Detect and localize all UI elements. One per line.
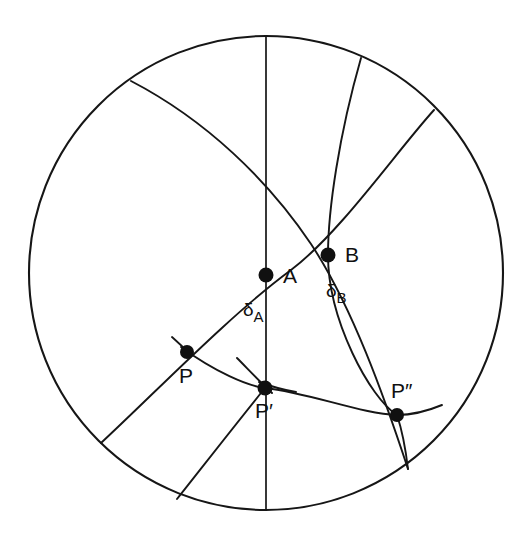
delta-A-glyph: δ (243, 299, 254, 320)
delta-A-subscript: A (254, 308, 264, 325)
point-label-A: A (283, 264, 297, 287)
great-circle-exit-bottom-left (177, 388, 265, 499)
point-label-B: B (345, 243, 359, 266)
point-marker-Pprime[interactable] (258, 381, 273, 396)
great-circle-arc-through-B-and-Pdoubleprime (328, 58, 408, 469)
figure-root: A B P P′ P″ δA δB (0, 0, 529, 544)
point-label-Pdoubleprime-mark: ″ (405, 379, 413, 402)
delta-B-subscript: B (337, 289, 347, 306)
point-marker-Pdoubleprime[interactable] (390, 408, 404, 422)
point-label-Pprime-letter: P (255, 399, 269, 422)
arc-label-delta-B: δB (326, 280, 347, 306)
point-marker-A[interactable] (259, 268, 274, 283)
arc-label-delta-A: δA (243, 299, 264, 325)
delta-B-glyph: δ (326, 280, 337, 301)
point-label-P: P (179, 364, 193, 387)
spherical-diagram: A B P P′ P″ δA δB (0, 0, 529, 544)
point-label-Pprime: P′ (255, 399, 273, 422)
point-marker-P[interactable] (180, 345, 194, 359)
point-label-Pprime-mark: ′ (269, 399, 273, 422)
point-marker-B[interactable] (321, 248, 336, 263)
point-label-Pdoubleprime-letter: P (391, 379, 405, 402)
point-label-Pdoubleprime: P″ (391, 379, 413, 402)
